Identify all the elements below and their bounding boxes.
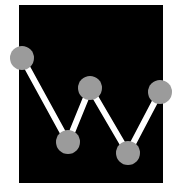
node-circle-5: [148, 80, 172, 104]
node-circle-2: [56, 130, 80, 154]
node-circle-4: [116, 141, 140, 165]
node-circle-3: [78, 76, 102, 100]
node-circle-1: [10, 46, 34, 70]
line-chart-icon: [0, 0, 181, 189]
